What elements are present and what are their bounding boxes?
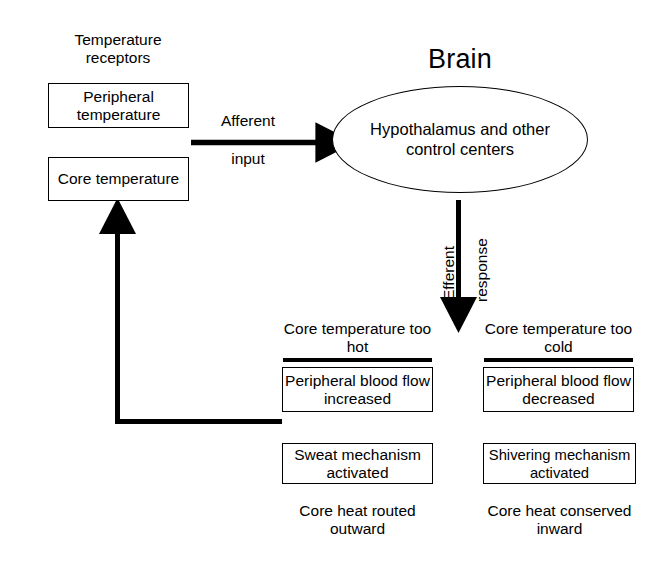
branch-hot-secondary-box: Sweat mechanism activated [282,443,433,484]
afferent-input-label-top: Afferent [196,112,300,130]
branch-cold-rule [484,358,633,362]
branch-hot-secondary-label: Sweat mechanism activated [283,446,432,482]
branch-cold-primary-label: Peripheral blood flow decreased [484,372,633,408]
branch-hot-primary-box: Peripheral blood flow increased [282,367,433,412]
branch-hot-primary-label: Peripheral blood flow increased [283,372,432,408]
branch-cold-outcome: Core heat conserved inward [483,502,636,538]
branch-cold-primary-box: Peripheral blood flow decreased [483,367,634,412]
hypothalamus-ellipse: Hypothalamus and other control centers [332,86,588,193]
peripheral-temperature-label: Peripheral temperature [49,88,188,124]
branch-cold-secondary-label: Shivering mechanism activated [484,446,635,482]
temperature-receptors-heading: Temperature receptors [43,31,193,67]
peripheral-temperature-box: Peripheral temperature [48,83,189,128]
branch-cold-secondary-box: Shivering mechanism activated [483,443,636,484]
branch-hot-heading: Core temperature too hot [282,320,433,356]
feedback-arrow [118,228,283,422]
branch-hot-outcome: Core heat routed outward [282,502,433,538]
hypothalamus-label: Hypothalamus and other control centers [370,120,550,159]
diagram-canvas: Temperature receptors Peripheral tempera… [0,0,667,570]
branch-cold-heading: Core temperature too cold [483,320,634,356]
afferent-input-label-bottom: input [196,150,300,168]
core-temperature-box: Core temperature [48,157,189,201]
efferent-label-left: Efferent [440,246,458,300]
core-temperature-label: Core temperature [58,170,179,188]
efferent-label-right: response [473,238,491,302]
brain-title: Brain [385,44,535,74]
branch-hot-rule [283,358,432,362]
